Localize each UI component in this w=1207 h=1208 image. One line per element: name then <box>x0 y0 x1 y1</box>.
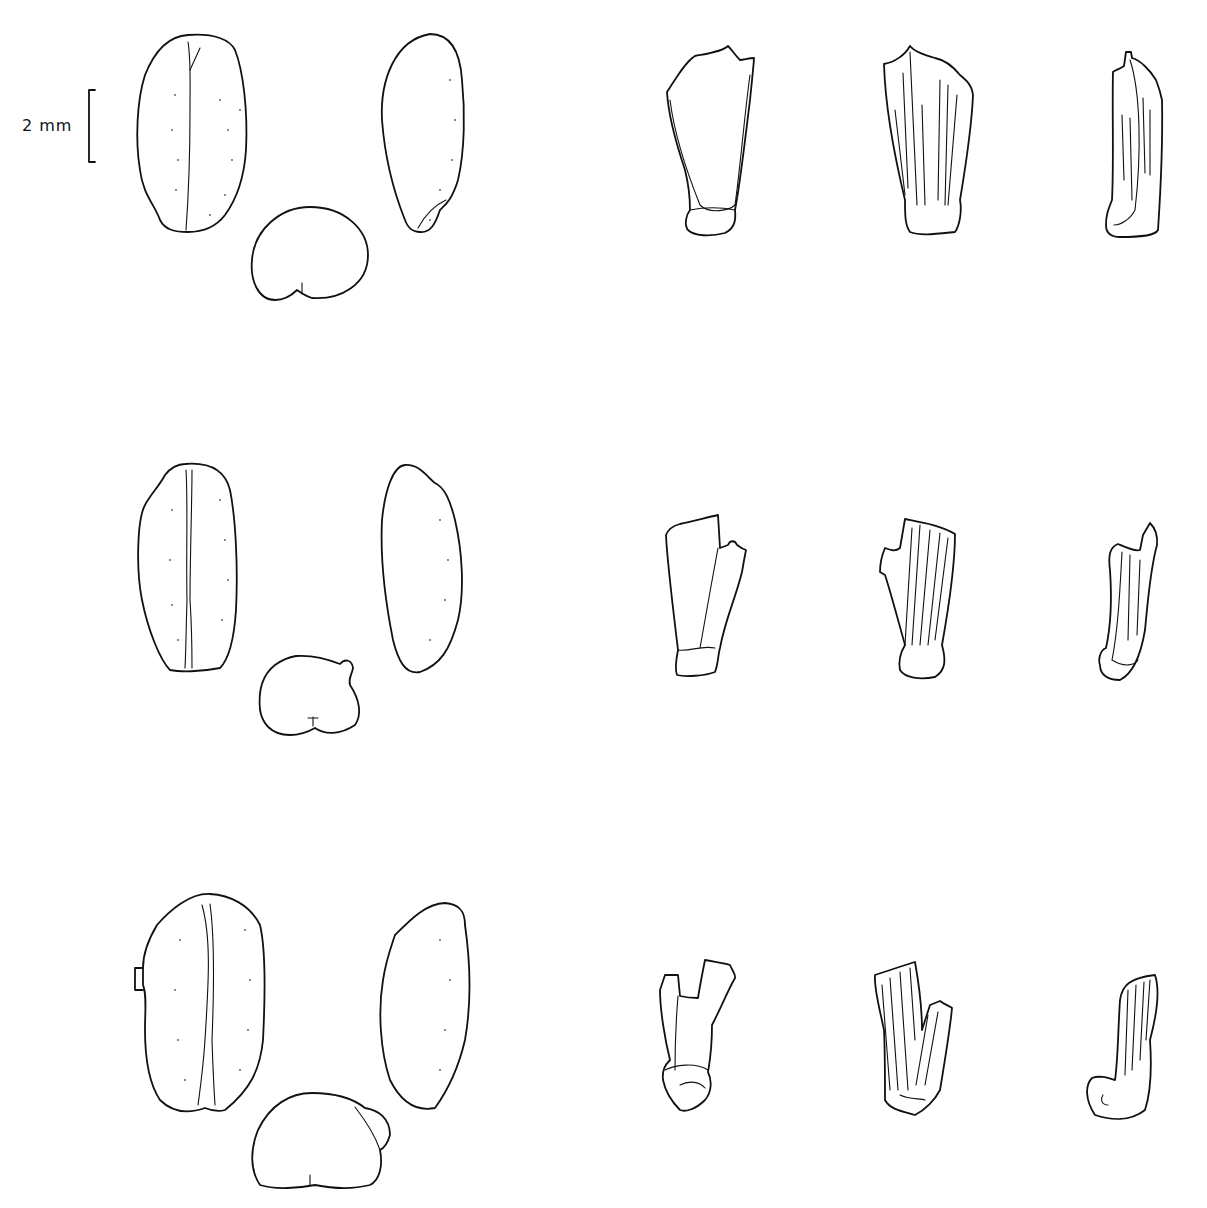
grain-ventral-view <box>137 35 246 232</box>
grain-cross-section <box>252 1093 390 1188</box>
spikelet-fork-side <box>1087 975 1158 1119</box>
spikelet-fork-front <box>660 960 735 1111</box>
plate-drawing <box>0 0 1207 1208</box>
grain-lateral-view <box>382 465 462 672</box>
grain-lateral-view <box>380 903 469 1109</box>
row-3 <box>135 894 1158 1188</box>
spikelet-fork-front <box>666 515 746 676</box>
spikelet-fork-side <box>1099 523 1157 680</box>
spikelet-fork-side <box>1106 52 1162 237</box>
grain-cross-section <box>252 207 368 300</box>
spikelet-fork-front <box>667 46 754 235</box>
spikelet-fork-back <box>884 46 973 234</box>
spikelet-fork-back <box>880 519 955 678</box>
grain-ventral-view <box>138 464 237 672</box>
row-2 <box>138 464 1157 735</box>
row-1 <box>137 34 1162 300</box>
grain-cross-section <box>260 656 360 735</box>
scale-bar <box>89 90 95 162</box>
scale-bar-label: 2 mm <box>22 116 72 135</box>
grain-ventral-view <box>135 894 265 1111</box>
spikelet-fork-back <box>875 962 952 1115</box>
specimen-plate: 2 mm <box>0 0 1207 1208</box>
grain-lateral-view <box>382 34 464 232</box>
